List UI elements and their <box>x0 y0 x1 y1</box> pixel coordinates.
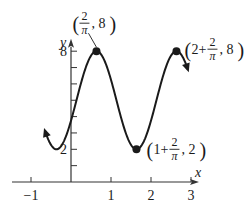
x-tick-label: −1 <box>24 188 39 203</box>
x-tick-label: 2 <box>148 188 155 203</box>
point-marker <box>92 47 100 55</box>
svg-text:π: π <box>171 149 178 163</box>
svg-text:, 8: , 8 <box>91 16 105 31</box>
svg-text:π: π <box>209 49 216 63</box>
svg-text:2+: 2+ <box>191 42 206 57</box>
x-tick-label: 3 <box>188 188 195 203</box>
svg-text:): ) <box>199 139 206 162</box>
axes: xy−112328 <box>12 35 202 203</box>
svg-text:2: 2 <box>171 135 177 149</box>
y-tick-label: 8 <box>60 44 67 59</box>
point-label: (2+2π, 8) <box>184 35 244 63</box>
point-label: (2π, 8) <box>72 9 116 47</box>
arrowhead-icon <box>182 62 190 72</box>
svg-text:π: π <box>81 23 88 37</box>
svg-text:): ) <box>109 13 116 36</box>
arrowhead-icon <box>43 128 51 138</box>
svg-text:, 2: , 2 <box>181 142 195 157</box>
svg-text:): ) <box>237 39 244 62</box>
svg-text:(: ( <box>184 39 191 62</box>
x-tick-label: 1 <box>108 188 115 203</box>
curve <box>45 51 188 149</box>
svg-text:2: 2 <box>209 35 215 49</box>
labeled-points: (2π, 8)(1+2π, 2)(2+2π, 8) <box>72 9 244 163</box>
svg-text:(: ( <box>146 139 153 162</box>
svg-text:2: 2 <box>81 9 87 23</box>
svg-text:, 8: , 8 <box>219 42 233 57</box>
sinusoid-plot: xy−112328 (2π, 8)(1+2π, 2)(2+2π, 8) <box>0 0 244 206</box>
svg-text:(: ( <box>72 13 79 36</box>
point-marker <box>132 145 140 153</box>
x-axis-label: x <box>194 165 202 180</box>
point-marker <box>172 47 180 55</box>
svg-text:1+: 1+ <box>153 142 168 157</box>
point-label: (1+2π, 2) <box>146 135 206 163</box>
y-axis-arrow-icon <box>68 39 74 48</box>
